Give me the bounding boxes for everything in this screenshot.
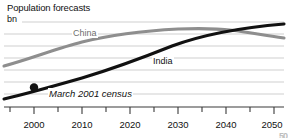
x-tick-label-2050: 2050 [261, 119, 282, 130]
x-tick-label-2000: 2000 [23, 119, 44, 130]
series-line-india [4, 24, 284, 99]
chart-plot-area [0, 0, 288, 138]
x-axis [4, 107, 284, 114]
x-tick-label-2030: 2030 [167, 119, 188, 130]
population-forecasts-chart: Population forecasts bn [0, 0, 288, 138]
march-2001-census-marker [30, 83, 38, 91]
x-tick-label-2040: 2040 [215, 119, 236, 130]
annotation-label-march-2001-census: March 2001 census [48, 88, 133, 99]
x-tick-label-2020: 2020 [119, 119, 140, 130]
corner-page-mark: 50 [279, 131, 287, 138]
series-label-india: India [152, 56, 174, 66]
series-label-china: China [72, 28, 98, 38]
x-tick-label-2010: 2010 [71, 119, 92, 130]
